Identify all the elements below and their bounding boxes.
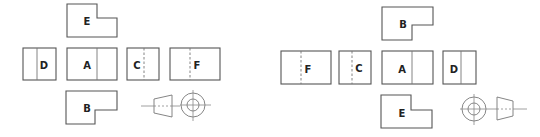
right-view-f-label: F [305,64,312,75]
right-view-c: C [339,51,371,84]
left-view-e-label: E [84,16,91,27]
right-view-c-label: C [355,63,362,74]
left-arrangement: E D A C F B [23,4,220,124]
right-view-d-label: D [450,64,458,75]
right-view-a: A [382,51,433,84]
right-view-e-label: E [399,108,406,119]
left-view-a-label: A [83,60,91,71]
right-view-e: E [381,95,432,128]
right-view-d: D [443,51,476,84]
left-view-f: F [170,48,220,80]
right-arrangement: B F C A D E [281,7,527,128]
left-view-b-label: B [83,103,91,114]
projection-diagram: E D A C F B [0,0,540,137]
truncated-cone-icon [497,97,527,120]
left-view-e: E [67,4,117,37]
left-view-b: B [66,91,117,124]
right-view-b-label: B [399,19,407,30]
right-projection-symbol [460,94,527,125]
left-view-d: D [23,48,56,80]
right-view-f: F [281,51,331,84]
left-view-f-label: F [194,60,201,71]
left-view-c-label: C [133,60,140,71]
right-view-b: B [382,7,433,40]
right-view-a-label: A [398,64,406,75]
concentric-circles-icon [180,90,211,121]
concentric-circles-icon [460,94,497,125]
left-view-d-label: D [40,60,48,71]
left-projection-symbol [141,90,211,121]
truncated-cone-icon [141,95,180,117]
left-view-a: A [67,48,117,80]
left-view-c: C [127,48,159,80]
